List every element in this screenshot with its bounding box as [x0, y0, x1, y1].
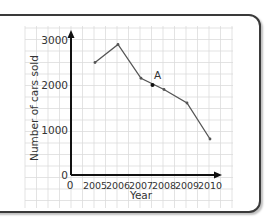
y-tick-label: 3000 — [41, 34, 68, 46]
annotation-point — [151, 83, 155, 87]
y-axis-label: Number of cars sold — [28, 55, 40, 161]
axes — [68, 30, 223, 179]
data-point — [117, 43, 120, 46]
x-axis-label: Year — [129, 189, 153, 201]
x-tick-label: 2005 — [83, 180, 107, 191]
annotation-label: A — [154, 69, 162, 81]
series-line — [95, 45, 210, 140]
x-tick-label: 2006 — [106, 180, 130, 191]
y-tick-labels: 0100020003000 — [41, 34, 68, 181]
x-tick-label: 2010 — [198, 180, 222, 191]
x-tick-label: 2009 — [175, 180, 199, 191]
data-series — [94, 43, 212, 140]
x-tick-label: 0 — [67, 179, 74, 191]
y-tick-label: 2000 — [41, 79, 68, 91]
data-point — [163, 88, 166, 91]
annotations: A — [151, 69, 162, 87]
data-point — [94, 61, 97, 64]
y-axis-arrow-icon — [68, 30, 75, 38]
y-tick-label: 1000 — [41, 124, 68, 136]
data-point — [186, 102, 189, 105]
data-point — [140, 77, 143, 80]
data-point — [209, 138, 212, 141]
x-tick-label: 2008 — [152, 180, 176, 191]
line-chart: 0100020003000 0200520062007200820092010 … — [0, 0, 270, 224]
